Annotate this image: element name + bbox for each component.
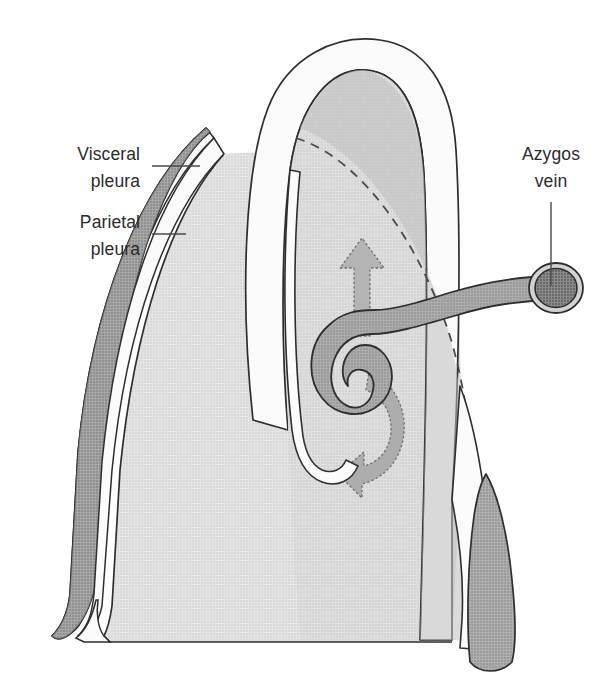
parietal-pleura-label-line1: Parietal [80, 212, 140, 232]
vessel-lumen [535, 269, 577, 308]
azygos-vein-cut-end [529, 263, 583, 313]
visceral-pleura-label-line1: Visceral [77, 144, 140, 164]
figure-canvas: Visceral pleura Parietal pleura Azygos v… [0, 0, 613, 690]
azygos-vein-label-line2: vein [535, 171, 568, 191]
anatomy-illustration: Visceral pleura Parietal pleura Azygos v… [0, 0, 613, 690]
azygos-vein-label-line1: Azygos [522, 144, 580, 164]
parietal-pleura-label-line2: pleura [91, 239, 140, 259]
visceral-pleura-label-line2: pleura [91, 171, 140, 191]
